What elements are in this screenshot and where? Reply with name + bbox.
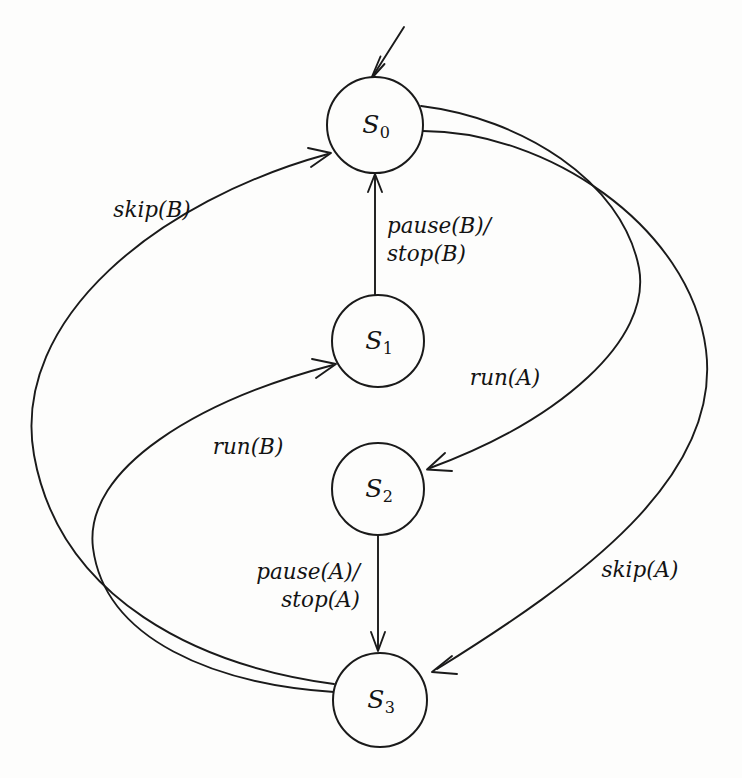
edge-label-skip-b: skip(B) (113, 196, 190, 224)
state-label-s1: S1 (365, 326, 393, 357)
state-machine-diagram: S0 S1 S2 S3 pause(B)/ stop(B) run(A) pau… (0, 0, 742, 778)
edge-label-line: run(B) (213, 433, 284, 461)
edge-label-line: run(A) (470, 364, 540, 392)
transition-s1-to-s0 (368, 174, 382, 295)
edge-label-skip-a: skip(A) (601, 556, 678, 584)
edge-label-line: stop(B) (387, 240, 491, 268)
edge-label-pause-b-stop-b: pause(B)/ stop(B) (387, 212, 491, 268)
edge-label-pause-a-stop-a: pause(A)/ stop(A) (256, 558, 360, 614)
transition-initial-arrow (371, 27, 404, 79)
edge-label-line: pause(A)/ (256, 558, 360, 586)
state-label-s2: S2 (365, 474, 393, 505)
edge-label-line: skip(B) (113, 196, 190, 224)
transition-s3-to-s1 (92, 359, 336, 692)
state-label-s3: S3 (367, 685, 395, 716)
edge-label-run-b: run(B) (213, 433, 284, 461)
edge-label-run-a: run(A) (470, 364, 540, 392)
edge-label-line: stop(A) (256, 586, 360, 614)
edge-label-line: skip(A) (601, 556, 678, 584)
state-label-s0: S0 (362, 110, 390, 141)
transition-s0-to-s2 (421, 106, 640, 471)
edge-label-line: pause(B)/ (387, 212, 491, 240)
transition-s2-to-s3 (371, 535, 385, 651)
